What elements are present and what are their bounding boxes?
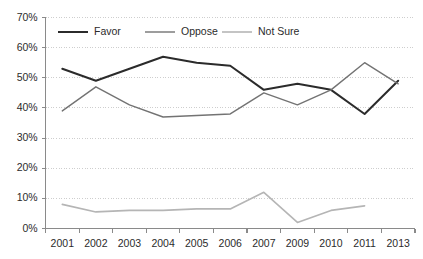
y-axis-label: 70% — [0, 11, 38, 23]
series-line-favor — [62, 57, 398, 114]
x-axis-label: 2005 — [180, 237, 214, 249]
x-axis-ticks — [46, 229, 416, 234]
axis-lines — [46, 18, 416, 229]
series-line-not-sure — [62, 192, 364, 222]
y-axis-label: 0% — [0, 222, 38, 234]
series-line-oppose — [62, 63, 398, 117]
x-axis-label: 2013 — [381, 237, 415, 249]
x-axis-label: 2009 — [281, 237, 315, 249]
y-axis-label: 40% — [0, 101, 38, 113]
x-axis-label: 2002 — [79, 237, 113, 249]
x-axis-label: 2006 — [213, 237, 247, 249]
y-axis-label: 60% — [0, 41, 38, 53]
x-axis-label: 2003 — [113, 237, 147, 249]
x-axis-label: 2010 — [314, 237, 348, 249]
gridlines — [46, 18, 416, 199]
x-axis-label: 2004 — [146, 237, 180, 249]
legend-label-not-sure: Not Sure — [258, 25, 299, 37]
y-axis-label: 10% — [0, 191, 38, 203]
x-axis-label: 2011 — [348, 237, 382, 249]
legend-label-oppose: Oppose — [181, 25, 218, 37]
y-axis-label: 50% — [0, 71, 38, 83]
chart-canvas — [0, 0, 423, 259]
legend-label-favor: Favor — [94, 25, 121, 37]
data-series-group — [62, 57, 398, 223]
y-axis-label: 30% — [0, 131, 38, 143]
y-axis-label: 20% — [0, 161, 38, 173]
y-axis-ticks — [42, 18, 46, 229]
x-axis-label: 2007 — [247, 237, 281, 249]
x-axis-label: 2001 — [46, 237, 80, 249]
line-chart: 0%10%20%30%40%50%60%70% 2001200220032004… — [0, 0, 423, 259]
